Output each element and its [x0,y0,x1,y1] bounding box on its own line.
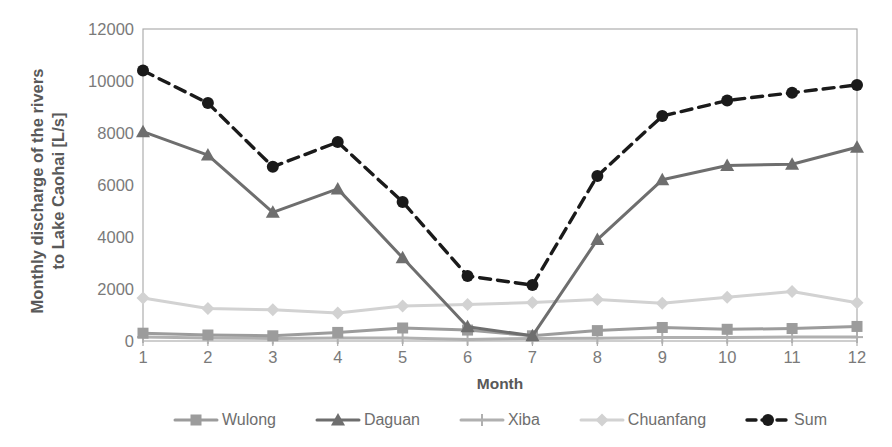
data-point-circle-marker [762,414,774,426]
data-point-plus-marker [397,332,409,344]
series-line [143,292,857,313]
legend-item-chuanfang[interactable]: Chuanfang [579,411,706,429]
x-tick-label: 11 [772,349,812,366]
x-tick-label: 1 [123,349,163,366]
series-line [143,71,857,286]
x-tick-label: 10 [707,349,747,366]
data-point-square-marker [202,330,213,341]
data-point-diamond-marker [595,414,608,427]
data-point-diamond-marker [721,291,734,304]
line-chart: Monthly discharge of the rivers to Lake … [0,0,892,447]
legend-item-xiba[interactable]: Xiba [459,411,540,429]
data-point-square-marker [138,328,149,339]
legend-item-daguan[interactable]: Daguan [315,411,420,429]
series-line [143,132,857,336]
x-tick-label: 5 [383,349,423,366]
data-point-circle-marker [656,110,668,122]
series-line [143,337,857,339]
data-point-circle-marker [267,161,279,173]
data-point-diamond-marker [591,293,604,306]
data-point-square-marker [397,323,408,334]
legend-swatch-diamond-icon [579,412,625,428]
data-point-diamond-marker [656,297,669,310]
data-point-circle-marker [397,196,409,208]
x-tick-label: 12 [837,349,877,366]
legend-label: Daguan [364,411,420,429]
data-point-triangle-marker [136,125,150,138]
x-tick-label: 4 [318,349,358,366]
data-point-circle-marker [526,279,538,291]
legend-label: Chuanfang [628,411,706,429]
data-point-square-marker [787,323,798,334]
legend-swatch-circle-icon [745,412,791,428]
data-point-diamond-marker [137,292,150,305]
data-point-circle-marker [137,65,149,77]
data-point-diamond-marker [396,299,409,312]
data-point-square-marker [722,324,733,335]
data-point-circle-marker [462,270,474,282]
legend-swatch-square-icon [173,412,219,428]
x-tick-label: 2 [188,349,228,366]
legend-label: Xiba [508,411,540,429]
x-tick-label: 9 [642,349,682,366]
data-point-circle-marker [851,79,863,91]
legend-item-sum[interactable]: Sum [745,411,827,429]
data-point-circle-marker [721,95,733,107]
legend-item-wulong[interactable]: Wulong [173,411,276,429]
series-sum [137,65,863,292]
x-tick-label: 3 [253,349,293,366]
data-point-square-marker [191,415,202,426]
x-axis-tick-labels: 123456789101112 [143,349,857,373]
data-point-square-marker [592,325,603,336]
data-point-circle-marker [202,97,214,109]
legend-label: Sum [794,411,827,429]
data-point-circle-marker [591,170,603,182]
data-point-circle-marker [786,87,798,99]
data-point-plus-marker [476,414,488,426]
data-point-square-marker [332,327,343,338]
data-point-diamond-marker [201,302,214,315]
data-point-diamond-marker [526,296,539,309]
x-tick-label: 8 [577,349,617,366]
data-point-circle-marker [332,136,344,148]
x-tick-label: 7 [512,349,552,366]
data-point-diamond-marker [786,285,799,298]
data-point-triangle-marker [850,140,864,153]
x-axis-title: Month [143,375,857,393]
chart-legend: WulongDaguanXibaChuanfangSum [143,405,857,435]
series-chuanfang [137,285,864,319]
data-point-diamond-marker [266,303,279,316]
data-point-plus-marker [656,332,668,344]
data-point-square-marker [267,330,278,341]
data-point-triangle-marker [331,182,345,195]
legend-swatch-plus-icon [459,412,505,428]
legend-swatch-triangle-icon [315,412,361,428]
data-point-diamond-marker [461,298,474,311]
x-tick-label: 6 [448,349,488,366]
data-point-diamond-marker [331,306,344,319]
legend-label: Wulong [222,411,276,429]
data-point-square-marker [657,322,668,333]
data-point-square-marker [852,321,863,332]
data-point-diamond-marker [851,296,864,309]
x-axis-ticks [143,341,857,346]
